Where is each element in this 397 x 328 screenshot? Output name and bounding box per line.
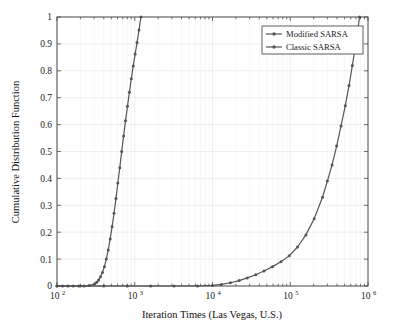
y-tick-label: 0.7 [40, 93, 52, 103]
series-marker [348, 84, 351, 87]
y-tick-label: 0.3 [40, 201, 52, 211]
series-marker [130, 77, 133, 80]
legend-label: Classic SARSA [286, 42, 341, 52]
y-axis-title: Cumulative Distribution Function [10, 80, 21, 223]
x-tick-exponent: 3 [140, 289, 143, 296]
x-axis-title: Iteration Times (Las Vegas, U.S.) [142, 309, 283, 321]
series-marker [304, 233, 307, 236]
series-marker [254, 273, 257, 276]
y-tick-label: 0.6 [40, 120, 52, 130]
series-marker [103, 265, 106, 268]
series-marker [97, 279, 100, 282]
series-marker [246, 276, 249, 279]
series-marker [321, 196, 324, 199]
y-tick-label: 0.1 [40, 255, 52, 265]
y-tick-label: 0.5 [40, 147, 52, 157]
series-marker [111, 225, 114, 228]
y-tick-label: 0.2 [40, 228, 52, 238]
y-tick-label: 0 [47, 281, 52, 291]
x-tick-exponent: 2 [62, 289, 65, 296]
series-marker [116, 181, 119, 184]
series-marker [263, 269, 266, 272]
legend-marker-icon [272, 45, 275, 48]
series-marker [335, 145, 338, 148]
x-tick-mantissa: 10 [283, 291, 293, 301]
series-marker [113, 212, 116, 215]
series-marker [238, 279, 241, 282]
series-marker [101, 271, 104, 274]
series-marker [118, 166, 121, 169]
series-marker [220, 283, 223, 286]
series-marker [279, 260, 282, 263]
y-tick-label: 0.9 [40, 39, 52, 49]
series-marker [331, 163, 334, 166]
series-marker [126, 105, 129, 108]
x-tick-mantissa: 10 [128, 291, 138, 301]
y-tick-label: 0.4 [40, 174, 52, 184]
series-marker [351, 64, 354, 67]
series-marker [124, 119, 127, 122]
y-tick-label: 0.8 [40, 66, 52, 76]
series-marker [296, 246, 299, 249]
x-tick-mantissa: 10 [361, 291, 371, 301]
legend-label: Modified SARSA [286, 29, 349, 39]
series-marker [134, 53, 137, 56]
x-tick-mantissa: 10 [206, 291, 216, 301]
series-marker [138, 28, 141, 31]
series-marker [229, 281, 232, 284]
series-marker [136, 41, 139, 44]
series-marker [288, 254, 291, 257]
series-marker [99, 275, 102, 278]
series-marker [114, 197, 117, 200]
series-marker [128, 91, 131, 94]
legend-marker-icon [272, 32, 275, 35]
chart-legend[interactable]: Modified SARSAClassic SARSA [262, 26, 363, 54]
series-marker [105, 258, 108, 261]
series-marker [340, 124, 343, 127]
series-marker [109, 237, 112, 240]
series-marker [326, 180, 329, 183]
series-marker [344, 104, 347, 107]
series-marker [122, 134, 125, 137]
series-marker [120, 150, 123, 153]
series-marker [107, 248, 110, 251]
chart-canvas: 00.10.20.30.40.50.60.70.80.9110210310410… [0, 0, 397, 328]
x-tick-mantissa: 10 [50, 291, 60, 301]
x-tick-exponent: 5 [295, 289, 298, 296]
series-marker [313, 217, 316, 220]
series-marker [132, 64, 135, 67]
cdf-chart-figure: 00.10.20.30.40.50.60.70.80.9110210310410… [0, 0, 397, 328]
series-marker [271, 265, 274, 268]
y-tick-label: 1 [47, 12, 52, 22]
